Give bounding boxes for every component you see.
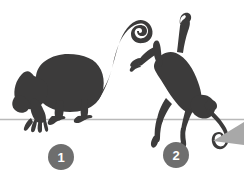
badge-1-label: 1 bbox=[57, 150, 64, 165]
figure-root: 1 2 bbox=[0, 0, 244, 182]
badge-2-label: 2 bbox=[172, 148, 179, 163]
badge-1[interactable]: 1 bbox=[48, 144, 74, 170]
monkey-1-torso bbox=[36, 54, 104, 112]
badge-2[interactable]: 2 bbox=[163, 142, 189, 168]
monkey-sequence-illustration: 1 2 bbox=[0, 0, 244, 182]
